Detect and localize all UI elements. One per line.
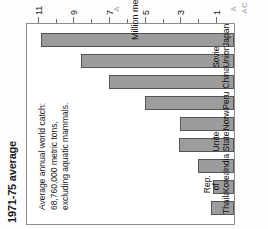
axis-tick-label: 5	[141, 10, 151, 15]
rotated-chart-container: 1971-75 average Average annual world cat…	[0, 0, 268, 229]
bar-category-label: Japan	[222, 34, 232, 47]
bar-group: Norway	[27, 117, 234, 131]
axis-tick-label: 3	[176, 10, 186, 15]
axis-tick-minor	[127, 19, 128, 23]
bar-category-label: Peru	[222, 97, 232, 110]
bar-category-label: Thailand	[222, 201, 232, 214]
bar-category-label: India	[222, 159, 232, 172]
bar-category-label: China	[222, 76, 232, 89]
figure-canvas: A A AC 1971-75 average Average annual wo…	[0, 0, 268, 229]
axis-tick-major	[38, 17, 39, 23]
axis-tick-label: 11	[34, 6, 44, 15]
bar-category-label: Rep. of Korea	[203, 180, 232, 193]
bar-category-label: United States	[212, 138, 231, 151]
axis-tick-major	[216, 17, 217, 23]
chart-title: 1971-75 average	[6, 141, 18, 223]
value-axis: Million metric tons 1357911	[26, 0, 235, 23]
axis-tick-label: 1	[212, 10, 222, 15]
axis-tick-label: 7	[105, 10, 115, 15]
axis-tick-label: 9	[69, 10, 79, 15]
axis-tick-minor	[163, 19, 164, 23]
axis-tick-major	[73, 17, 74, 23]
axis-tick-major	[145, 17, 146, 23]
bar-group: Thailand	[27, 201, 234, 215]
bar-group: United States	[27, 138, 234, 152]
bar-group: Rep. of Korea	[27, 180, 234, 194]
axis-title: Million metric tons	[130, 0, 140, 40]
bar	[109, 75, 234, 89]
axis-tick-minor	[56, 19, 57, 23]
bar-group: Peru	[27, 96, 234, 110]
axis-tick-minor	[198, 19, 199, 23]
bar-group: Soviet Union	[27, 54, 234, 68]
bar-category-label: Soviet Union	[212, 55, 231, 68]
bar-group: China	[27, 75, 234, 89]
bar-group: India	[27, 159, 234, 173]
axis-tick-major	[180, 17, 181, 23]
plot-area: Average annual world catch: 68,760,000 m…	[26, 23, 235, 225]
bar-category-label: Norway	[222, 118, 232, 131]
axis-tick-major	[109, 17, 110, 23]
axis-tick-minor	[91, 19, 92, 23]
